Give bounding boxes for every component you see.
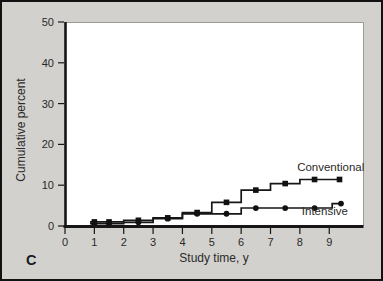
- x-axis-title: Study time, y: [179, 251, 248, 265]
- y-tick-label: 10: [42, 179, 54, 191]
- intensive-marker: [165, 216, 171, 222]
- intensive-marker: [135, 219, 141, 225]
- x-tick-label: 7: [267, 236, 273, 248]
- y-tick-label: 50: [42, 16, 54, 28]
- x-tick-label: 5: [209, 236, 215, 248]
- x-tick-label: 6: [238, 236, 244, 248]
- conventional-marker: [253, 187, 259, 193]
- y-tick-label: 30: [42, 98, 54, 110]
- plot-area: [65, 22, 363, 226]
- series-label-conventional: Conventional: [297, 161, 364, 173]
- x-tick-label: 9: [326, 236, 332, 248]
- figure-panel-c: 012345678901020304050 Conventional Inten…: [0, 0, 383, 281]
- series-label-intensive: Intensive: [302, 205, 348, 217]
- y-tick-label: 20: [42, 138, 54, 150]
- x-tick-label: 4: [179, 236, 185, 248]
- y-tick-label: 0: [48, 220, 54, 232]
- y-axis-title: Cumulative percent: [14, 78, 28, 182]
- panel-letter: C: [26, 252, 37, 268]
- intensive-marker: [253, 205, 259, 211]
- intensive-marker: [194, 211, 200, 217]
- x-tick-label: 8: [297, 236, 303, 248]
- x-tick-label: 2: [121, 236, 127, 248]
- x-tick-label: 0: [62, 236, 68, 248]
- intensive-marker: [282, 205, 288, 211]
- conventional-marker: [337, 177, 343, 183]
- conventional-marker: [224, 200, 230, 206]
- conventional-marker: [312, 177, 318, 183]
- conventional-marker: [282, 181, 288, 187]
- intensive-marker: [224, 211, 230, 217]
- y-tick-label: 40: [42, 57, 54, 69]
- x-tick-label: 3: [150, 236, 156, 248]
- step-chart: 012345678901020304050 Conventional Inten…: [2, 2, 381, 279]
- x-tick-label: 1: [91, 236, 97, 248]
